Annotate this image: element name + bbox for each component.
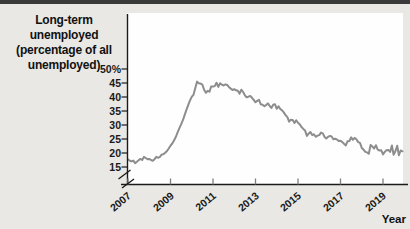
data-line-series <box>128 82 403 164</box>
y-tick-label: 40 <box>71 91 121 103</box>
y-tick-label: 25 <box>71 133 121 145</box>
y-tick-label: 45 <box>71 77 121 89</box>
x-axis-title: Year <box>346 213 406 225</box>
y-axis-title-line-2: (percentage of all <box>2 43 126 58</box>
y-tick-label: 20 <box>71 147 121 159</box>
unemployment-line-chart-figure: Long-term unemployed (percentage of all … <box>0 0 410 229</box>
y-tick-label: 50% <box>71 63 121 75</box>
y-tick-label: 35 <box>71 105 121 117</box>
y-axis-title-line-1: Long-term unemployed <box>2 13 126 43</box>
y-tick-label: 30 <box>71 119 121 131</box>
y-tick-label: 15 <box>71 161 121 173</box>
